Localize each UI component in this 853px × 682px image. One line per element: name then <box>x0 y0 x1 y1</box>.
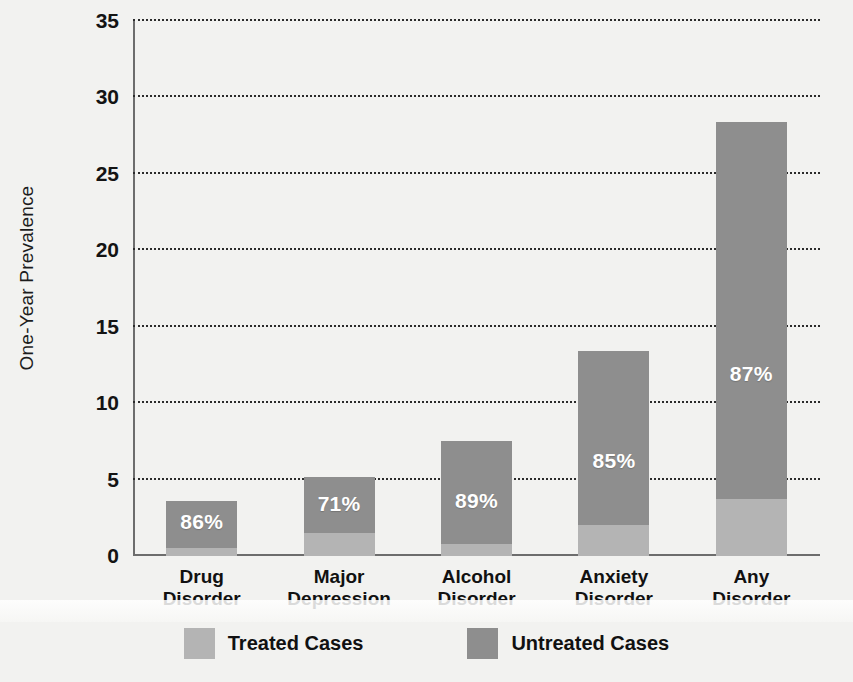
bar-slot: 86% <box>133 21 270 556</box>
legend-item[interactable]: Treated Cases <box>184 628 364 659</box>
y-axis-tick-label: 5 <box>107 468 119 492</box>
bar-group: 86%71%89%85%87% <box>133 21 820 556</box>
bar-segment-untreated[interactable]: 85% <box>578 351 649 525</box>
y-axis-tick-label: 10 <box>96 391 119 415</box>
bar-segment-untreated[interactable]: 89% <box>441 441 512 543</box>
bar-slot: 87% <box>683 21 820 556</box>
untreated-percent-label: 86% <box>166 510 237 534</box>
legend-item[interactable]: Untreated Cases <box>467 628 669 659</box>
stacked-bar[interactable]: 89% <box>441 441 512 556</box>
stacked-bar[interactable]: 85% <box>578 351 649 556</box>
paper-band <box>0 600 853 622</box>
legend-color-swatch <box>184 628 215 659</box>
untreated-percent-label: 87% <box>716 362 787 386</box>
legend-label: Untreated Cases <box>511 632 669 655</box>
legend-color-swatch <box>467 628 498 659</box>
x-axis-category-line: Anxiety <box>545 566 682 588</box>
x-axis-category-line: Alcohol <box>408 566 545 588</box>
untreated-percent-label: 85% <box>578 449 649 473</box>
bar-slot: 85% <box>545 21 682 556</box>
bar-segment-treated[interactable] <box>716 499 787 556</box>
bar-slot: 71% <box>270 21 407 556</box>
x-axis-category-line: Any <box>683 566 820 588</box>
stacked-bar[interactable]: 87% <box>716 122 787 556</box>
bar-slot: 89% <box>408 21 545 556</box>
bar-segment-untreated[interactable]: 87% <box>716 122 787 500</box>
plot-area: 05101520253035 86%71%89%85%87% <box>133 21 820 556</box>
y-axis-tick-label: 35 <box>96 9 119 33</box>
x-axis-category-line: Drug <box>133 566 270 588</box>
bar-segment-treated[interactable] <box>441 544 512 556</box>
bar-segment-treated[interactable] <box>578 525 649 556</box>
stacked-bar[interactable]: 71% <box>304 477 375 556</box>
prevalence-stacked-bar-chart: One-Year Prevalence 05101520253035 86%71… <box>0 0 853 682</box>
legend-label: Treated Cases <box>228 632 364 655</box>
y-axis-title: One-Year Prevalence <box>14 0 40 556</box>
bar-segment-treated[interactable] <box>166 548 237 556</box>
bar-segment-untreated[interactable]: 86% <box>166 501 237 548</box>
y-axis-tick-label: 25 <box>96 162 119 186</box>
x-axis-category-line: Major <box>270 566 407 588</box>
untreated-percent-label: 89% <box>441 489 512 513</box>
untreated-percent-label: 71% <box>304 492 375 516</box>
y-axis-tick-label: 0 <box>107 544 119 568</box>
y-axis-tick-label: 30 <box>96 85 119 109</box>
stacked-bar[interactable]: 86% <box>166 501 237 556</box>
bar-segment-untreated[interactable]: 71% <box>304 477 375 534</box>
chart-legend: Treated CasesUntreated Cases <box>0 628 853 659</box>
y-axis-title-text: One-Year Prevalence <box>16 186 38 371</box>
bar-segment-treated[interactable] <box>304 533 375 556</box>
y-axis-tick-label: 15 <box>96 315 119 339</box>
y-axis-tick-label: 20 <box>96 238 119 262</box>
